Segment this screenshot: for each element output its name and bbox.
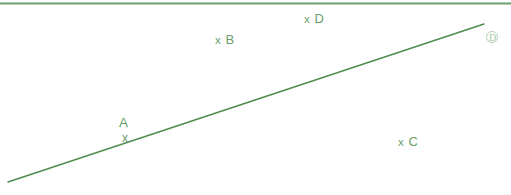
point-label-d: x D (304, 12, 324, 26)
point-c-mark: x (398, 136, 404, 148)
point-label-b: x B (215, 33, 235, 47)
point-label-c: x C (398, 135, 418, 149)
circled-d-icon: D (485, 30, 500, 45)
end-marker-glyph: D (489, 33, 496, 43)
point-c-name: C (408, 134, 418, 149)
point-a-mark: x (122, 132, 129, 144)
point-d-name: D (314, 11, 324, 26)
figure-svg (0, 0, 511, 195)
figure-canvas: A x x B x D x C D (0, 0, 511, 195)
point-a-name: A (119, 116, 129, 130)
point-label-a: A x (118, 116, 129, 144)
point-b-name: B (225, 32, 234, 47)
point-b-mark: x (215, 34, 221, 46)
point-d-mark: x (304, 13, 310, 25)
diagonal-line (8, 24, 484, 182)
